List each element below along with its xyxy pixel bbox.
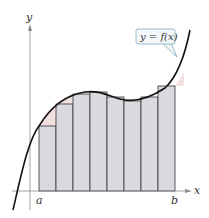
rectangle-4 xyxy=(90,92,107,191)
riemann-sum-diagram: y = f(x) y x a b xyxy=(0,0,209,218)
label-a: a xyxy=(36,194,43,207)
rectangle-1 xyxy=(39,126,56,191)
callout-label: y = f(x) xyxy=(139,31,178,42)
rectangle-2 xyxy=(56,104,73,191)
x-axis-label: x xyxy=(194,184,201,197)
rectangle-3 xyxy=(73,94,90,191)
label-b: b xyxy=(171,194,178,207)
function-callout: y = f(x) xyxy=(136,29,178,57)
rectangle-5 xyxy=(107,97,124,191)
rectangle-8 xyxy=(158,86,175,191)
rectangle-7 xyxy=(141,97,158,191)
rectangle-6 xyxy=(124,101,141,191)
y-axis-arrow-icon xyxy=(28,24,32,31)
y-axis-label: y xyxy=(25,11,33,24)
x-axis-arrow-icon xyxy=(185,189,192,193)
